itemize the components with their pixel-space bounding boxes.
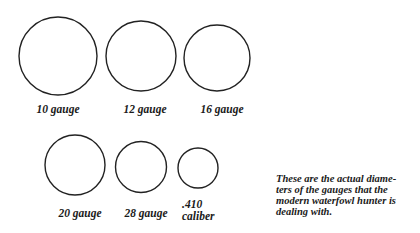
label-10-gauge: 10 gauge	[28, 103, 88, 115]
caption-line: modern waterfowl hunter is	[276, 195, 416, 206]
label-28-gauge: 28 gauge	[116, 207, 176, 219]
label-12-gauge: 12 gauge	[115, 103, 175, 115]
circle-10-gauge	[19, 17, 97, 95]
caption-line: These are the actual diame-	[276, 173, 416, 184]
circle-12-gauge	[106, 21, 176, 91]
caption-line: ters of the gauges that the	[276, 184, 416, 195]
circle-16-gauge	[184, 25, 250, 91]
label-20-gauge: 20 gauge	[50, 207, 110, 219]
circle-410-caliber	[178, 148, 218, 188]
circle-20-gauge	[45, 135, 105, 195]
label-410: .410	[182, 198, 202, 210]
caption: These are the actual diame- ters of the …	[276, 173, 416, 217]
caption-line: dealing with.	[276, 206, 416, 217]
label-16-gauge: 16 gauge	[192, 103, 252, 115]
label-caliber: caliber	[182, 210, 215, 222]
circle-28-gauge	[116, 142, 167, 193]
